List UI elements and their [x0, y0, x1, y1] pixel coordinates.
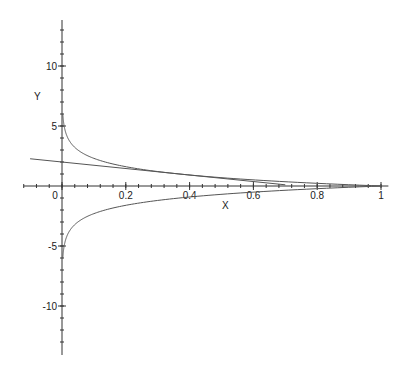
plot-area: 00.20.40.60.81-10-5510 X Y [0, 0, 405, 386]
y-axis-label: Y [34, 91, 41, 102]
lower-curve [63, 186, 381, 258]
x-tick-label: 0.2 [119, 190, 133, 201]
x-axis-label: X [222, 200, 229, 211]
y-tick-label: -10 [43, 301, 58, 312]
y-tick-label: 10 [46, 61, 58, 72]
x-tick-label: 0 [52, 190, 58, 201]
x-tick-label: 0.4 [183, 190, 197, 201]
x-tick-label: 0.8 [310, 190, 324, 201]
upper-curve [63, 114, 381, 186]
x-tick-label: 1 [378, 190, 384, 201]
tangent-line [30, 159, 285, 185]
y-tick-label: 5 [51, 121, 57, 132]
y-tick-label: -5 [48, 241, 57, 252]
